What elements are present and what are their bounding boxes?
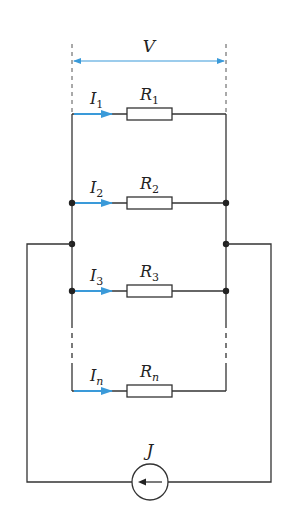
current-label-2: I2 xyxy=(89,178,103,200)
resistor-label-1: R1 xyxy=(139,85,159,107)
branch-n: In Rn xyxy=(72,362,226,397)
node-dot xyxy=(69,288,75,294)
branch-3: I3 R3 xyxy=(69,262,229,297)
resistor-label-n: Rn xyxy=(139,362,159,384)
resistor-n xyxy=(127,385,172,397)
rails xyxy=(72,114,226,391)
node-dot xyxy=(223,200,229,206)
source-label: J xyxy=(144,440,155,460)
circuit-diagram: V I1 R1 I2 R2 I3 R3 xyxy=(0,0,294,524)
node-dot xyxy=(223,288,229,294)
resistor-3 xyxy=(127,285,172,297)
outer-wire-left xyxy=(27,244,132,482)
current-label-n: In xyxy=(89,366,103,388)
voltage-label: V xyxy=(143,36,157,56)
branch-2: I2 R2 xyxy=(69,174,229,209)
current-label-3: I3 xyxy=(89,266,103,288)
resistor-2 xyxy=(127,197,172,209)
resistor-label-2: R2 xyxy=(139,174,159,196)
outer-wire-right xyxy=(168,244,271,482)
node-dot xyxy=(69,200,75,206)
current-label-1: I1 xyxy=(89,89,103,111)
resistor-label-3: R3 xyxy=(139,262,159,284)
current-source: J xyxy=(132,440,168,500)
branch-1: I1 R1 xyxy=(72,85,226,120)
resistor-1 xyxy=(127,108,172,120)
